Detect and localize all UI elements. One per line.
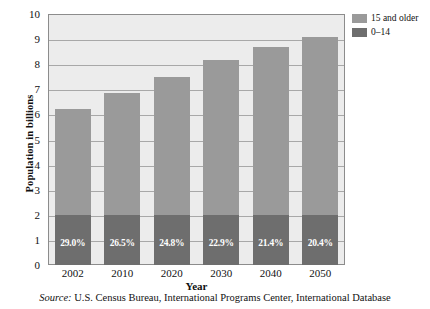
legend-item-older: 15 and older <box>352 12 430 24</box>
bar-group: 20.4% <box>302 37 338 265</box>
bar-data-label: 24.8% <box>154 238 190 248</box>
y-tick-label: 10 <box>10 8 40 20</box>
bar-data-label: 29.0% <box>55 238 91 248</box>
y-tick-label: 0 <box>10 259 40 271</box>
bar-data-label: 26.5% <box>104 238 140 248</box>
legend-item-young: 0–14 <box>352 26 430 38</box>
y-tick-label: 7 <box>10 83 40 95</box>
bar-segment-older <box>203 60 239 214</box>
bar-group: 22.9% <box>203 60 239 265</box>
population-stacked-bar-chart: Population in billions 012345678910 29.0… <box>0 0 430 309</box>
x-tick-label: 2040 <box>246 267 296 279</box>
legend-label-older: 15 and older <box>371 13 419 23</box>
y-tick-label: 1 <box>10 234 40 246</box>
bar-data-label: 22.9% <box>203 238 239 248</box>
x-tick-label: 2030 <box>196 267 246 279</box>
bars-layer: 29.0%26.5%24.8%22.9%21.4%20.4% <box>48 14 345 265</box>
source-note-text: U.S. Census Bureau, International Progra… <box>72 292 391 303</box>
x-tick-label: 2002 <box>48 267 98 279</box>
legend-swatch-icon-older <box>352 14 367 23</box>
bar-data-label: 20.4% <box>302 238 338 248</box>
x-axis-title: Year <box>48 280 345 292</box>
bar-segment-older <box>302 37 338 215</box>
y-tick-label: 6 <box>10 108 40 120</box>
bar-segment-older <box>104 93 140 215</box>
x-tick-label: 2020 <box>147 267 197 279</box>
y-tick-label: 4 <box>10 159 40 171</box>
bar-segment-older <box>55 109 91 214</box>
y-tick-label: 5 <box>10 134 40 146</box>
x-tick-label: 2010 <box>97 267 147 279</box>
bar-group: 21.4% <box>253 47 289 265</box>
bar-group: 24.8% <box>154 77 190 265</box>
source-note: Source: U.S. Census Bureau, Internationa… <box>0 292 430 303</box>
bar-group: 29.0% <box>55 109 91 265</box>
x-tick-label: 2050 <box>295 267 345 279</box>
source-note-prefix: Source: <box>39 292 71 303</box>
y-tick-label: 3 <box>10 184 40 196</box>
y-tick-label: 8 <box>10 58 40 70</box>
bar-group: 26.5% <box>104 93 140 265</box>
y-tick-label: 9 <box>10 33 40 45</box>
legend-swatch-icon-young <box>352 28 367 37</box>
bar-segment-older <box>154 77 190 215</box>
bar-data-label: 21.4% <box>253 238 289 248</box>
legend-label-young: 0–14 <box>371 27 390 37</box>
y-tick-label: 2 <box>10 209 40 221</box>
bar-segment-older <box>253 47 289 215</box>
chart-legend: 15 and older 0–14 <box>352 12 430 40</box>
